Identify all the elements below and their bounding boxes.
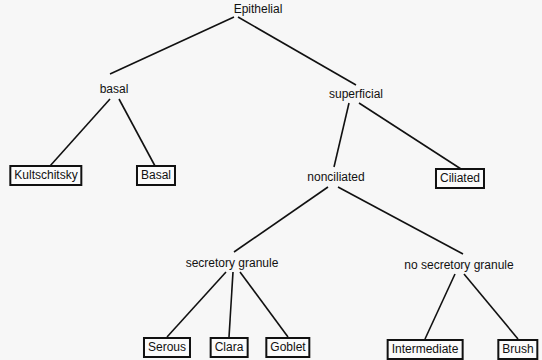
- node-basal: basal: [100, 82, 129, 96]
- edge-basal-basal-cell: [119, 99, 155, 166]
- edge-epithelial-superficial: [238, 17, 356, 85]
- leaf-ciliated: Ciliated: [435, 168, 485, 189]
- edge-superficial-nonciliated: [334, 103, 349, 167]
- leaf-clara: Clara: [210, 337, 249, 358]
- edge-nosecretory-intermediate: [425, 274, 455, 339]
- leaf-basal-cell: Basal: [136, 165, 176, 186]
- node-secretory-granule: secretory granule: [186, 256, 279, 270]
- leaf-brush: Brush: [497, 339, 538, 360]
- edge-nosecretory-brush: [464, 274, 518, 339]
- edge-secretory-serous: [167, 272, 226, 337]
- leaf-goblet: Goblet: [265, 337, 310, 358]
- edge-secretory-clara: [229, 272, 233, 337]
- edge-epithelial-basal: [110, 17, 234, 74]
- edge-basal-kultschitsky: [50, 99, 110, 166]
- leaf-intermediate: Intermediate: [387, 339, 464, 360]
- node-superficial: superficial: [329, 87, 383, 101]
- edge-nonciliated-secretory: [234, 187, 328, 252]
- edge-superficial-ciliated: [359, 103, 461, 169]
- leaf-serous: Serous: [143, 337, 191, 358]
- leaf-kultschitsky: Kultschitsky: [9, 165, 82, 186]
- node-nonciliated: nonciliated: [307, 170, 364, 184]
- edge-secretory-goblet: [240, 272, 288, 337]
- node-no-secretory-granule: no secretory granule: [404, 258, 513, 272]
- edge-nonciliated-nosecretory: [338, 187, 463, 254]
- node-epithelial: Epithelial: [234, 2, 283, 16]
